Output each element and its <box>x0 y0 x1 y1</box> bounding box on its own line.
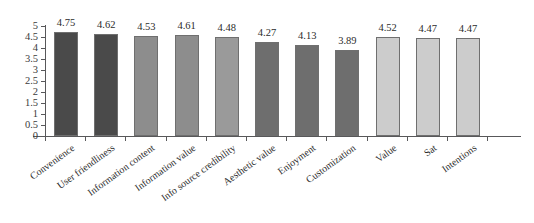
bar-value-label: 4.27 <box>258 27 276 39</box>
x-category-label-text: Info source credibility <box>159 142 237 203</box>
bar <box>54 32 78 137</box>
bar-group: 4.47 <box>416 26 440 136</box>
bar-value-label: 4.13 <box>298 30 316 42</box>
y-axis-tick: 4 <box>0 48 46 49</box>
y-axis-tick: 0.5 <box>0 125 46 126</box>
x-tick-mark <box>45 136 46 141</box>
y-axis-tick: 4.5 <box>0 37 46 38</box>
bar-group: 4.47 <box>456 26 480 136</box>
x-category-label-text: Sat <box>421 142 438 158</box>
bar-value-label: 4.61 <box>177 20 195 32</box>
y-axis-tick: 5 <box>0 26 46 27</box>
bar-value-label: 4.53 <box>137 21 155 33</box>
bar <box>456 38 480 136</box>
bar-value-label: 4.48 <box>218 22 236 34</box>
y-axis-tick: 2.5 <box>0 81 46 82</box>
bar-value-label: 4.47 <box>459 23 477 35</box>
y-axis-tick: 1 <box>0 114 46 115</box>
bar-value-label: 3.89 <box>338 35 356 47</box>
y-axis-tick: 3.5 <box>0 59 46 60</box>
x-category-label-text: Value <box>373 142 398 164</box>
x-category-label-text: Intentions <box>440 142 479 174</box>
y-tick-label: 5 <box>33 18 38 34</box>
bar-value-label: 4.52 <box>378 22 396 34</box>
y-axis-tick: 1.5 <box>0 103 46 104</box>
bar-value-label: 4.62 <box>97 19 115 31</box>
bar-group: 4.75 <box>54 26 78 136</box>
bar-value-label: 4.75 <box>57 17 75 29</box>
y-axis-tick: 0 <box>0 136 46 137</box>
bar-chart: 00.511.522.533.544.55 4.754.624.534.614.… <box>0 0 534 223</box>
y-axis-tick: 2 <box>0 92 46 93</box>
y-axis-tick: 3 <box>0 70 46 71</box>
bar <box>416 38 440 136</box>
bar-value-label: 4.47 <box>419 23 437 35</box>
